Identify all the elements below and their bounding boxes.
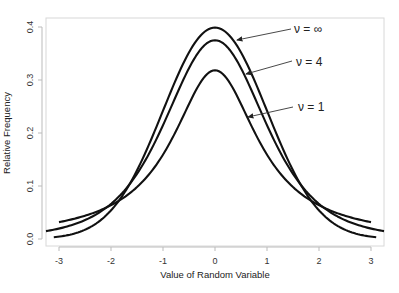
y-tick-label: 0.2 — [25, 127, 35, 140]
y-axis-title: Relative Frequency — [1, 92, 12, 174]
x-tick-label: 3 — [368, 256, 373, 266]
curve-df-4 — [46, 40, 384, 231]
y-tick-label: 0.1 — [25, 180, 35, 193]
x-tick-label: 0 — [212, 256, 217, 266]
curves — [46, 28, 384, 238]
y-axis: 0.00.10.20.30.4 — [25, 21, 42, 246]
curve-df-1 — [59, 70, 371, 222]
arrow-inf — [237, 29, 291, 40]
x-tick-label: 1 — [264, 256, 269, 266]
x-axis-title: Value of Random Variable — [160, 269, 270, 280]
x-tick-label: -3 — [55, 256, 63, 266]
arrow-1 — [248, 107, 293, 117]
t-distribution-chart: -3-2-10123 0.00.10.20.30.4 ν = ∞ ν = 4 ν… — [0, 0, 399, 293]
x-tick-label: 2 — [316, 256, 321, 266]
x-tick-label: -2 — [107, 256, 115, 266]
annotation-nu-4: ν = 4 — [296, 55, 323, 69]
y-tick-label: 0.3 — [25, 74, 35, 87]
arrow-4 — [246, 61, 292, 74]
annotation-nu-inf: ν = ∞ — [294, 22, 322, 36]
x-axis: -3-2-10123 — [55, 247, 374, 266]
annotation-nu-1: ν = 1 — [298, 100, 325, 114]
y-tick-label: 0.4 — [25, 21, 35, 34]
x-tick-label: -1 — [159, 256, 167, 266]
curve-df-inf — [54, 28, 376, 238]
y-tick-label: 0.0 — [25, 233, 35, 246]
